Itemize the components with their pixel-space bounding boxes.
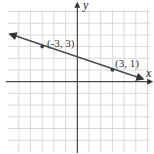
point-3-1 (111, 68, 115, 72)
coordinate-plane: x y (-3, 3) (3, 1) (0, 0, 154, 154)
y-axis-label: y (82, 0, 89, 12)
point-neg3-3 (40, 45, 44, 49)
grid-lines (8, 10, 150, 152)
point-label-3-1: (3, 1) (115, 57, 139, 70)
point-label-neg3-3: (-3, 3) (47, 37, 75, 50)
x-axis-label: x (145, 66, 152, 80)
